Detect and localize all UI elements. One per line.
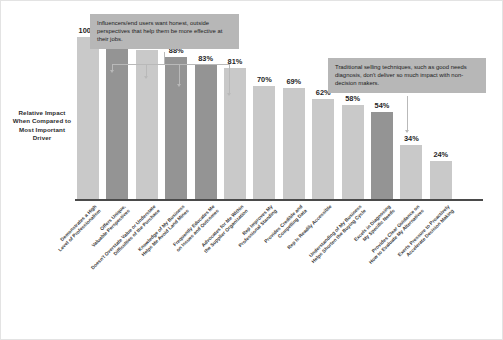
bar-value-label: 69% <box>277 77 311 86</box>
bar <box>312 99 334 200</box>
bar-column: 97% <box>106 37 128 200</box>
bar-value-label: 34% <box>394 134 428 143</box>
bar <box>106 42 128 200</box>
bar-value-label: 54% <box>365 101 399 110</box>
bar <box>195 65 217 200</box>
bar <box>283 88 305 200</box>
bar <box>400 145 422 200</box>
bar-column: 100% <box>77 37 99 200</box>
bar-column: 92% <box>136 37 158 200</box>
bar-column: 81% <box>224 37 246 200</box>
y-axis-label: Relative Impact When Compared to Most Im… <box>11 109 73 143</box>
bar <box>253 86 275 200</box>
bar <box>371 112 393 200</box>
bar <box>342 105 364 200</box>
bar-value-label: 24% <box>424 150 458 159</box>
callout-traditional: Traditional selling techniques, such as … <box>328 58 486 93</box>
bar-column: 88% <box>165 37 187 200</box>
bar-column: 69% <box>283 37 305 200</box>
callout-influencers: Influencers/end users want honest, outsi… <box>90 14 239 49</box>
bar-column: 70% <box>253 37 275 200</box>
bar <box>77 37 99 200</box>
x-axis-baseline <box>75 199 483 201</box>
bar-column: 83% <box>195 37 217 200</box>
bar <box>430 161 452 200</box>
slide-canvas: Relative Impact When Compared to Most Im… <box>0 0 503 340</box>
bar <box>224 68 246 200</box>
x-axis-category-labels: Demonstrates a High Level of Professiona… <box>75 204 485 339</box>
bar <box>165 57 187 200</box>
bar <box>136 50 158 200</box>
bar-value-label: 81% <box>218 57 252 66</box>
